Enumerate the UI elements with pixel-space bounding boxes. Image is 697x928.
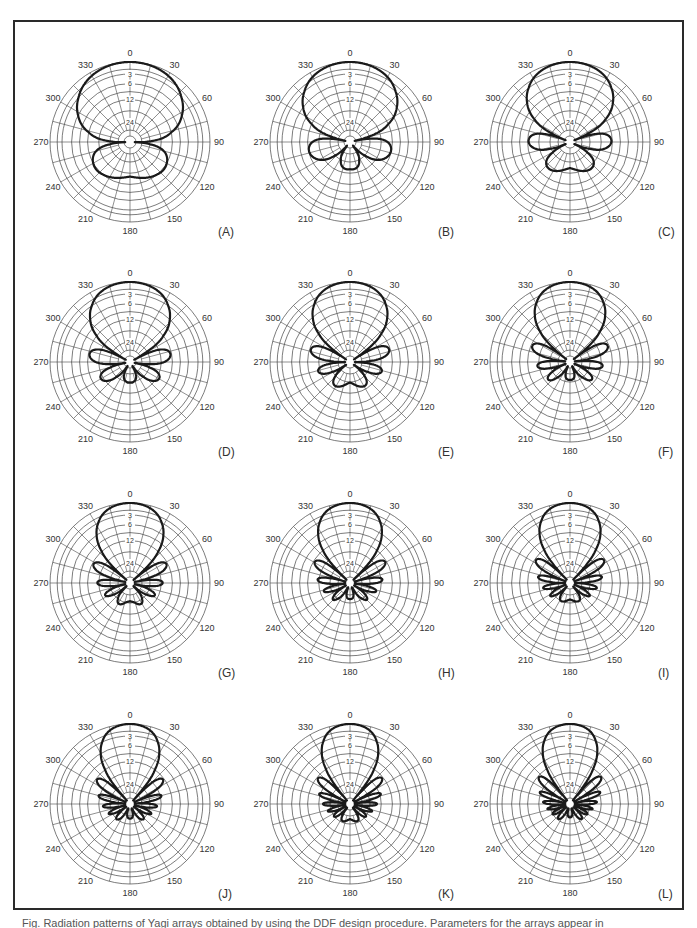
grid-spoke — [310, 814, 344, 873]
angle-tick-label: 120 — [200, 844, 215, 854]
grid-spoke — [140, 102, 199, 136]
angle-tick-label: 90 — [654, 137, 664, 147]
grid-spoke — [90, 593, 124, 652]
db-ring-label: 12 — [126, 537, 134, 544]
angle-tick-label: 60 — [422, 534, 432, 544]
db-ring-label: 3 — [128, 733, 132, 740]
grid-spoke — [576, 73, 610, 132]
angle-tick-label: 30 — [389, 280, 399, 290]
angle-tick-label: 60 — [642, 755, 652, 765]
angle-tick-label: 150 — [167, 655, 182, 665]
angle-tick-label: 60 — [422, 93, 432, 103]
angle-tick-label: 270 — [33, 357, 48, 367]
grid-spoke — [140, 368, 199, 402]
angle-tick-label: 120 — [640, 623, 655, 633]
angle-tick-label: 60 — [642, 534, 652, 544]
angle-tick-label: 330 — [78, 501, 93, 511]
grid-spoke — [356, 735, 390, 794]
angle-tick-label: 0 — [127, 48, 132, 58]
angle-tick-label: 240 — [485, 623, 500, 633]
polar-plot-e: 0306090120150180210240270300330361224(E) — [253, 268, 454, 459]
grid-spoke — [139, 151, 187, 199]
grid-spoke — [281, 102, 340, 136]
angle-tick-label: 150 — [607, 876, 622, 886]
grid-spoke — [293, 592, 341, 640]
grid-spoke — [90, 152, 124, 211]
angle-tick-label: 180 — [122, 667, 137, 677]
angle-tick-label: 30 — [609, 280, 619, 290]
angle-tick-label: 60 — [422, 755, 432, 765]
grid-spoke — [576, 593, 610, 652]
angle-tick-label: 180 — [342, 667, 357, 677]
db-ring-label: 24 — [566, 119, 574, 126]
grid-spoke — [90, 293, 124, 352]
angle-tick-label: 30 — [169, 501, 179, 511]
angle-tick-label: 90 — [214, 799, 224, 809]
angle-tick-label: 330 — [298, 60, 313, 70]
angle-tick-label: 240 — [45, 402, 60, 412]
db-ring-label: 3 — [128, 71, 132, 78]
angle-tick-label: 210 — [518, 214, 533, 224]
grid-spoke — [580, 810, 639, 844]
angle-tick-label: 240 — [485, 402, 500, 412]
angle-tick-label: 330 — [78, 60, 93, 70]
db-ring-label: 12 — [126, 316, 134, 323]
grid-spoke — [360, 102, 419, 136]
db-ring-label: 24 — [566, 560, 574, 567]
grid-spoke — [140, 543, 199, 577]
grid-spoke — [61, 102, 120, 136]
angle-tick-label: 270 — [473, 578, 488, 588]
db-ring-label: 24 — [346, 781, 354, 788]
angle-tick-label: 180 — [122, 446, 137, 456]
angle-tick-label: 30 — [389, 722, 399, 732]
angle-tick-label: 120 — [420, 402, 435, 412]
grid-spoke — [360, 810, 419, 844]
grid-spoke — [579, 305, 627, 353]
angle-tick-label: 330 — [518, 501, 533, 511]
angle-tick-label: 30 — [609, 722, 619, 732]
angle-tick-label: 90 — [434, 799, 444, 809]
db-ring-label: 24 — [566, 339, 574, 346]
db-ring-label: 12 — [346, 316, 354, 323]
db-ring-label: 3 — [348, 512, 352, 519]
grid-spoke — [501, 102, 560, 136]
angle-tick-label: 270 — [33, 578, 48, 588]
angle-tick-label: 240 — [265, 844, 280, 854]
angle-tick-label: 60 — [642, 313, 652, 323]
db-ring-label: 6 — [348, 300, 352, 307]
grid-spoke — [310, 372, 344, 431]
angle-tick-label: 30 — [169, 280, 179, 290]
db-ring-label: 12 — [566, 96, 574, 103]
grid-spoke — [356, 372, 390, 431]
angle-tick-label: 300 — [45, 93, 60, 103]
angle-tick-label: 90 — [654, 578, 664, 588]
angle-tick-label: 180 — [342, 446, 357, 456]
grid-spoke — [293, 85, 341, 133]
grid-spoke — [360, 543, 419, 577]
grid-spoke — [73, 592, 121, 640]
db-ring-label: 24 — [126, 339, 134, 346]
db-ring-label: 12 — [346, 96, 354, 103]
angle-tick-label: 0 — [347, 489, 352, 499]
grid-spoke — [513, 747, 561, 795]
angle-tick-label: 330 — [518, 722, 533, 732]
db-ring-label: 12 — [126, 96, 134, 103]
db-ring-label: 24 — [346, 119, 354, 126]
grid-spoke — [579, 151, 627, 199]
angle-tick-label: 120 — [420, 623, 435, 633]
angle-tick-label: 330 — [78, 280, 93, 290]
angle-tick-label: 120 — [420, 844, 435, 854]
angle-tick-label: 210 — [298, 434, 313, 444]
angle-tick-label: 90 — [434, 137, 444, 147]
angle-tick-label: 270 — [253, 799, 268, 809]
grid-spoke — [359, 85, 407, 133]
db-ring-label: 6 — [568, 300, 572, 307]
angle-tick-label: 90 — [214, 578, 224, 588]
grid-spoke — [579, 371, 627, 419]
grid-spoke — [136, 152, 170, 211]
grid-spoke — [281, 810, 340, 844]
grid-spoke — [136, 73, 170, 132]
angle-tick-label: 270 — [253, 357, 268, 367]
db-ring-label: 24 — [566, 781, 574, 788]
